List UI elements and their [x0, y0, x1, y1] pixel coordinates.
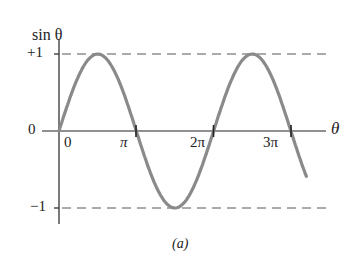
- y-tick-label-zero: 0: [28, 121, 36, 138]
- x-tick-label-2pi: 2π: [190, 134, 205, 151]
- y-tick-label-minus1: −1: [30, 198, 46, 215]
- figure-caption: (a): [172, 236, 188, 252]
- y-axis-label: sin θ: [32, 26, 62, 44]
- x-tick-label-3pi: 3π: [263, 134, 278, 151]
- y-tick-label-plus1: +1: [27, 44, 43, 61]
- x-tick-label-0: 0: [64, 134, 72, 151]
- x-tick-label-pi: π: [120, 134, 128, 151]
- x-axis-label: θ: [331, 119, 339, 139]
